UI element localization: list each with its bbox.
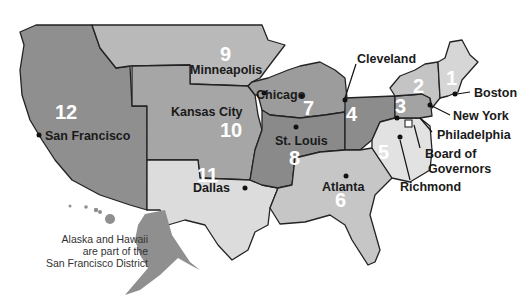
city-label-new-york[interactable]: New York: [453, 110, 509, 123]
hawaii-islands: [69, 205, 116, 225]
district-number-8: 8: [289, 148, 300, 168]
note-line-2: are part of the: [28, 245, 148, 257]
note-line-1: Alaska and Hawaii: [28, 233, 148, 245]
district-number-5: 5: [378, 142, 389, 162]
city-label-san-francisco[interactable]: San Francisco: [45, 130, 130, 143]
city-label-kansas-city[interactable]: Kansas City: [171, 106, 243, 119]
city-label-boston[interactable]: Boston: [474, 87, 517, 100]
district-1-region[interactable]: [438, 40, 478, 98]
city-label-dallas[interactable]: Dallas: [193, 182, 230, 195]
city-label-richmond[interactable]: Richmond: [400, 181, 461, 194]
note-line-3: San Francisco District: [28, 257, 148, 269]
district-number-4: 4: [346, 104, 357, 124]
district-number-12: 12: [55, 102, 77, 122]
district-number-10: 10: [220, 120, 242, 140]
city-label-minneapolis[interactable]: Minneapolis: [190, 64, 262, 77]
district-number-9: 9: [220, 44, 231, 64]
board-of-governors-label-line2[interactable]: Governors: [428, 163, 491, 176]
city-label-cleveland[interactable]: Cleveland: [357, 53, 416, 66]
city-label-chicago[interactable]: Chicago: [256, 89, 305, 102]
city-label-st-louis[interactable]: St. Louis: [275, 135, 328, 148]
alaska-hawaii-note: Alaska and Hawaii are part of the San Fr…: [28, 233, 148, 269]
district-number-3: 3: [395, 96, 406, 116]
district-number-1: 1: [446, 68, 457, 88]
city-label-atlanta[interactable]: Atlanta: [322, 181, 364, 194]
city-label-philadelphia[interactable]: Philadelphia: [437, 129, 511, 142]
district-number-2: 2: [413, 76, 424, 96]
board-of-governors-marker: [405, 120, 412, 127]
board-of-governors-label-line1[interactable]: Board of: [425, 148, 476, 161]
